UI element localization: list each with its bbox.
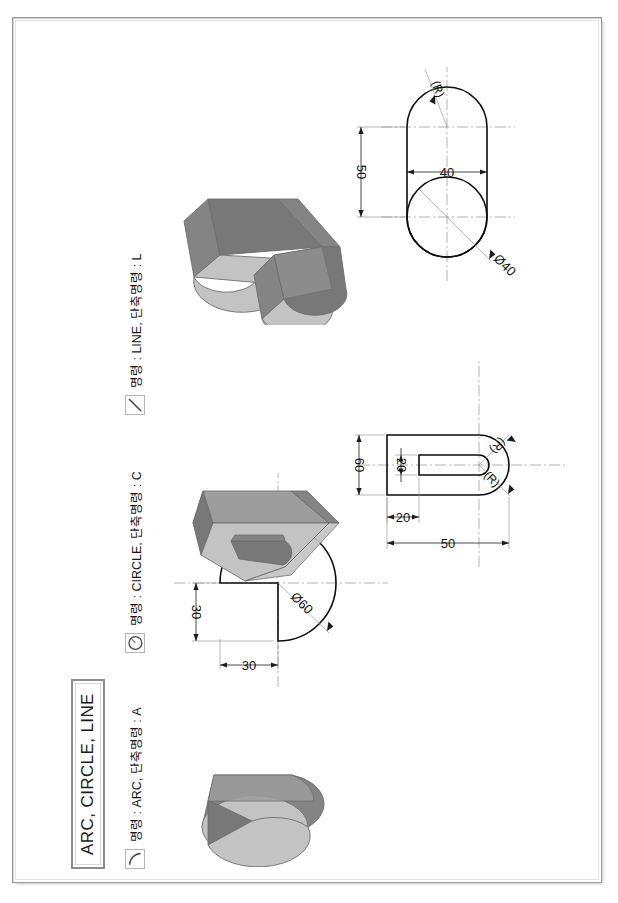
legend-label-arc: 명령 : ARC, 단축명령 : A <box>126 707 145 842</box>
line-icon <box>125 395 145 415</box>
legend-label-circle: 명령 : CIRCLE, 단축명령 : C <box>126 471 145 626</box>
legend-label-line: 명령 : LINE, 단축명령 : L <box>126 253 145 388</box>
rotated-sheet-container: ARC, CIRCLE, LINE 명령 : ARC, 단축명령 : A 명령 … <box>14 19 604 885</box>
arc-icon <box>125 849 145 869</box>
dim-60: 60 <box>352 457 367 471</box>
legend-item-circle: 명령 : CIRCLE, 단축명령 : C <box>124 471 146 653</box>
title-box: ARC, CIRCLE, LINE <box>71 679 105 869</box>
circle-icon <box>125 633 145 653</box>
drawing-sheet-page: ARC, CIRCLE, LINE 명령 : ARC, 단축명령 : A 명령 … <box>0 0 618 903</box>
page-title: ARC, CIRCLE, LINE <box>78 693 98 855</box>
iso-view-arc <box>184 717 334 867</box>
dim-50: 50 <box>441 535 455 550</box>
dim-40: 40 <box>440 164 454 179</box>
legend-item-line: 명령 : LINE, 단축명령 : L <box>124 253 146 415</box>
legend-item-arc: 명령 : ARC, 단축명령 : A <box>124 707 146 869</box>
dim-20-vertical: 20 <box>396 509 410 524</box>
dim-50: 50 <box>354 164 369 178</box>
dim-radius-right: (R) <box>429 78 448 98</box>
dim-30-horizontal: 30 <box>189 604 204 618</box>
dim-20-horizontal: 20 <box>394 457 409 471</box>
dim-30-vertical: 30 <box>242 657 256 672</box>
profile-inner-slot <box>419 455 489 475</box>
ortho-view-line: 50 40 Ø40 (R) <box>319 50 554 305</box>
ortho-view-circle: 60 50 20 20 <box>329 335 579 595</box>
iso-view-circle <box>179 430 344 595</box>
title-box-inner: ARC, CIRCLE, LINE <box>75 683 101 865</box>
sheet-content: ARC, CIRCLE, LINE 명령 : ARC, 단축명령 : A 명령 … <box>14 19 604 885</box>
